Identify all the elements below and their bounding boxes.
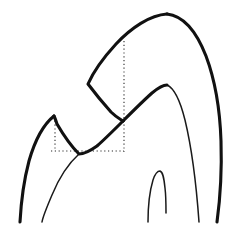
figure-background <box>0 0 242 225</box>
figure-root <box>0 0 242 225</box>
tooth-cusp-outline-figure <box>0 0 242 225</box>
